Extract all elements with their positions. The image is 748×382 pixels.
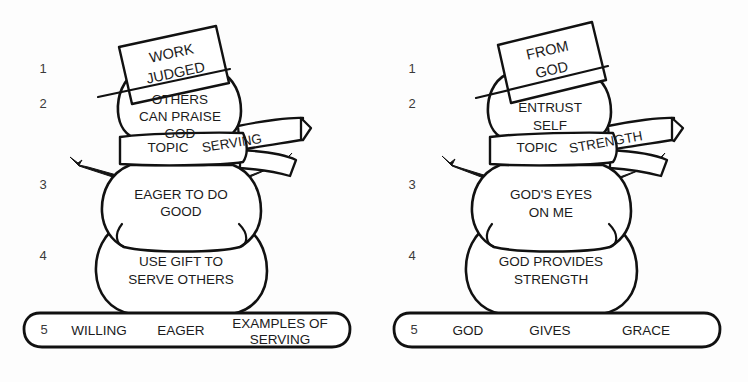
- scarf-label: TOPIC: [147, 140, 188, 155]
- base-item-1: WILLING: [71, 323, 127, 338]
- margin-number-3: 3: [39, 177, 46, 192]
- upper-body-text-line2: ON ME: [529, 205, 573, 220]
- margin-number-3: 3: [408, 177, 415, 192]
- head-text-line2: SELF: [533, 118, 567, 133]
- base-number-5: 5: [40, 322, 47, 337]
- head-text-line3: GOD: [165, 126, 196, 141]
- head-text-line2: CAN PRAISE: [139, 109, 221, 124]
- margin-number-1: 1: [39, 61, 46, 76]
- upper-body-text-line1: EAGER TO DO: [134, 187, 227, 202]
- lower-body-text-line1: GOD PROVIDES: [499, 254, 603, 269]
- margin-number-1: 1: [408, 61, 415, 76]
- base-number-5: 5: [410, 322, 417, 337]
- margin-number-4: 4: [39, 248, 46, 263]
- head-text-line1: ENTRUST: [518, 100, 582, 115]
- scarf-label: TOPIC: [516, 140, 557, 155]
- lower-body-text-line2: STRENGTH: [514, 272, 588, 287]
- base-item-3-line2: SERVING: [250, 332, 311, 347]
- base-item-3-line1: GRACE: [622, 323, 670, 338]
- margin-number-2: 2: [39, 96, 46, 111]
- base-item-2: EAGER: [157, 323, 205, 338]
- snowman-figure-serving: 1 2 3 4: [0, 0, 374, 382]
- head-text-line1: OTHERS: [152, 92, 208, 107]
- upper-body-text-line2: GOOD: [160, 204, 202, 219]
- base-item-2: GIVES: [529, 323, 570, 338]
- lower-body-text-line1: USE GIFT TO: [139, 254, 223, 269]
- snowman-figure-strength: 1 2 3 4: [374, 0, 748, 382]
- margin-number-2: 2: [408, 96, 415, 111]
- lower-body-text-line2: SERVE OTHERS: [128, 272, 234, 287]
- base-item-3-line1: EXAMPLES OF: [232, 316, 327, 331]
- diagram-canvas: 1 2 3 4: [0, 0, 748, 382]
- base-item-1: GOD: [453, 323, 484, 338]
- margin-number-4: 4: [408, 248, 415, 263]
- upper-body-text-line1: GOD'S EYES: [510, 187, 592, 202]
